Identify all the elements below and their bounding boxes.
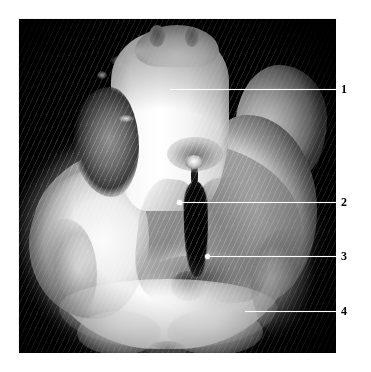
leader-line-3 xyxy=(207,256,337,257)
callout-number-3: 3 xyxy=(341,250,347,262)
tissue-speck xyxy=(119,115,133,122)
leader-line-2 xyxy=(179,202,337,203)
leader-line-1 xyxy=(170,89,337,90)
leader-line-4 xyxy=(245,311,337,312)
callout-number-1: 1 xyxy=(341,83,347,95)
commissure-nodule xyxy=(185,155,203,169)
anterior-midline-dip xyxy=(147,341,187,353)
tissue-speck xyxy=(97,71,107,79)
epiglottis-notch-right xyxy=(185,27,199,47)
figure-page: 1 2 3 4 xyxy=(0,0,371,372)
epiglottis-notch-left xyxy=(149,25,165,47)
tissue-speck xyxy=(123,43,153,59)
callout-number-4: 4 xyxy=(341,305,347,317)
callout-number-2: 2 xyxy=(341,196,347,208)
specimen-photograph xyxy=(19,19,336,353)
